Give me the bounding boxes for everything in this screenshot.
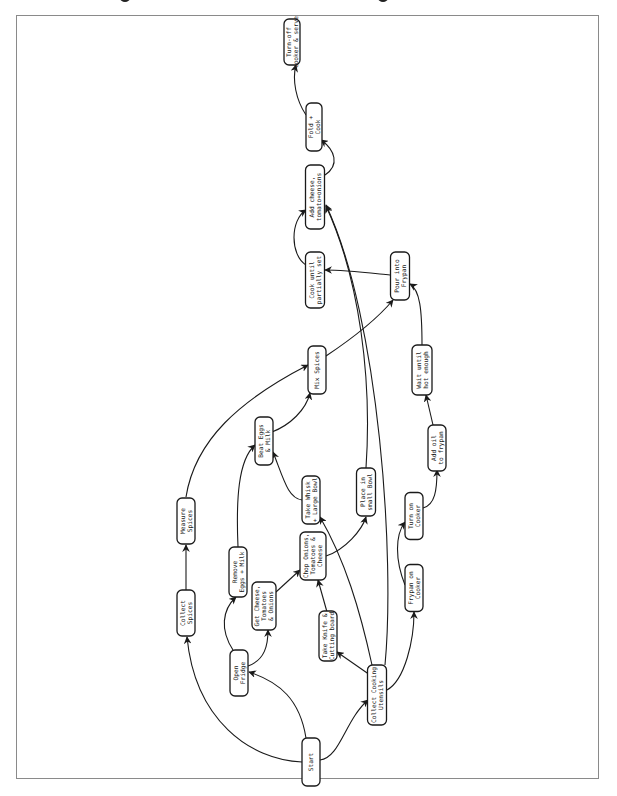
edge-open_fridge-to-get_cheese: [248, 630, 268, 666]
node-label-line: Cutting board: [328, 612, 336, 661]
node-label: Get Cheese,Tomatoes& Onions: [253, 586, 274, 627]
node-open-fridge: OpenFridge: [230, 650, 248, 696]
node-label-line: & Milk: [264, 430, 271, 453]
node-label-line: Take Whisk: [304, 481, 311, 519]
edge-take_knife-to-chop: [318, 580, 327, 612]
edge-wait_hot-to-pour: [410, 284, 422, 345]
node-label: Take Knife &Cutting board: [321, 612, 336, 661]
node-label-line: tomato+onions: [315, 173, 322, 222]
node-start: Start: [302, 738, 320, 786]
node-label-line: hot enough: [422, 351, 430, 389]
flowchart-diagram: StartOpenFridgeCollect CookingUtensilsCo…: [0, 0, 617, 796]
node-collect-utensils: Collect CookingUtensils: [368, 665, 387, 725]
node-label-line: Add oil: [430, 435, 437, 461]
node-label: Add oilto frypan: [430, 431, 445, 465]
edge-place_small-to-add_cheese: [326, 206, 367, 468]
edge-open_fridge-to-remove_eggs: [224, 597, 236, 650]
edge-start-to-collect_utensils: [320, 700, 368, 760]
edge-start-to-open_fridge: [249, 672, 306, 738]
edge-measure_spices-to-mix_spices: [186, 365, 308, 497]
node-label-line: Start: [307, 752, 314, 771]
node-label-line: Measure: [179, 508, 186, 534]
node-label-line: Fold +: [307, 116, 314, 139]
node-mix-spices: Mix Spices: [308, 346, 326, 394]
node-label-line: Utensils: [377, 680, 384, 710]
node-label-line: Cooker: [414, 505, 421, 528]
node-label-line: Eggs + Milk: [238, 551, 246, 592]
node-fold-cook: Fold +Cook: [306, 103, 322, 151]
node-label-line: Turn-off: [285, 27, 292, 57]
node-label-line: Turn on: [407, 503, 414, 529]
nodes-layer: StartOpenFridgeCollect CookingUtensilsCo…: [177, 16, 446, 786]
node-label: CollectSpices: [179, 600, 194, 626]
node-label-line: Spices: [186, 510, 194, 533]
node-label-line: Tomatoes &: [309, 537, 316, 575]
node-label-line: small Bowl: [366, 473, 373, 511]
node-get-cheese: Get Cheese,Tomatoes& Onions: [252, 582, 276, 630]
node-label: Mix Spices: [313, 351, 321, 389]
edge-pour-to-cook_partial: [325, 270, 390, 275]
edge-mix_spices-to-pour: [326, 300, 393, 356]
node-measure-spices: MeasureSpices: [177, 498, 195, 544]
node-label-line: Spices: [186, 602, 194, 625]
node-label-line: Take Knife &: [321, 613, 328, 658]
node-place-small: Place insmall Bowl: [357, 468, 376, 516]
node-pour: Pour intoFrypan: [391, 252, 410, 300]
node-collect-spices: CollectSpices: [177, 590, 195, 636]
node-add-oil: Add oilto frypan: [428, 425, 446, 471]
edge-get_cheese-to-chop: [276, 570, 300, 592]
edge-beat_eggs-to-mix_spices: [272, 393, 310, 432]
node-label: Place insmall Bowl: [359, 473, 373, 511]
node-cook-partial: Cook untilpartially set: [306, 252, 325, 308]
node-label-line: Add cheese,: [308, 177, 315, 218]
node-label: Turn onCooker: [407, 503, 421, 529]
node-label-line: Cooker: [414, 577, 421, 600]
edge-add_oil-to-wait_hot: [426, 395, 433, 425]
node-wait-hot: Wait untilhot enough: [412, 345, 432, 395]
node-chop: Chop Onions,Tomatoes &Cheese: [300, 532, 326, 580]
node-frypan-on: Frypan onCooker: [405, 565, 423, 612]
node-label-line: Cheese: [316, 545, 323, 568]
node-label-line: + Large Bowl: [311, 477, 319, 522]
node-label-line: cooker & serve: [292, 16, 299, 68]
node-label-line: Frypan: [400, 265, 408, 288]
node-label-line: Get Cheese,: [253, 586, 260, 627]
node-label-line: Wait until: [415, 351, 422, 389]
edge-chop-to-place_small: [326, 517, 366, 556]
edge-turn_on-to-add_oil: [423, 470, 437, 508]
node-label-line: Tomatoes: [260, 591, 267, 621]
node-label: Start: [307, 752, 314, 771]
node-label: Wait untilhot enough: [415, 351, 430, 389]
node-label-line: to frypan: [437, 431, 445, 465]
node-serve: Turn-offcooker & serve: [284, 16, 300, 68]
node-label-line: Cook: [314, 119, 321, 134]
edge-collect_utensils-to-take_knife: [337, 652, 370, 675]
node-label-line: Remove: [231, 561, 238, 584]
edge-collect_utensils-to-frypan_on: [387, 612, 414, 690]
edge-remove_eggs-to-beat_eggs: [237, 445, 255, 547]
node-label-line: Pour into: [393, 259, 400, 293]
node-label-line: Fridge: [239, 662, 247, 685]
edge-take_whisk-to-beat_eggs: [273, 452, 302, 500]
node-label-line: Cook until: [308, 261, 315, 299]
edge-fold_cook-to-serve: [294, 65, 306, 115]
edge-frypan_on-to-turn_on: [398, 522, 406, 585]
node-label-line: partially set: [315, 256, 323, 305]
node-remove-eggs: RemoveEggs + Milk: [229, 547, 247, 597]
node-beat-eggs: Beat Eggs& Milk: [255, 417, 273, 465]
node-take-knife: Take Knife &Cutting board: [319, 611, 337, 661]
node-label-line: Mix Spices: [313, 351, 321, 389]
node-label-line: Collect: [179, 600, 186, 626]
node-label: Add cheese,tomato+onions: [308, 173, 322, 222]
node-label: Cook untilpartially set: [308, 256, 323, 305]
node-label-line: Place in: [359, 477, 366, 507]
node-take-whisk: Take Whisk+ Large Bowl: [302, 476, 320, 524]
node-turn-on: Turn onCooker: [405, 493, 423, 540]
node-label-line: & Onions: [267, 591, 274, 621]
edge-cook_partial-to-add_cheese: [294, 210, 306, 265]
node-add-cheese: Add cheese,tomato+onions: [306, 165, 325, 229]
node-label: MeasureSpices: [179, 508, 194, 534]
node-label: Take Whisk+ Large Bowl: [304, 477, 319, 522]
